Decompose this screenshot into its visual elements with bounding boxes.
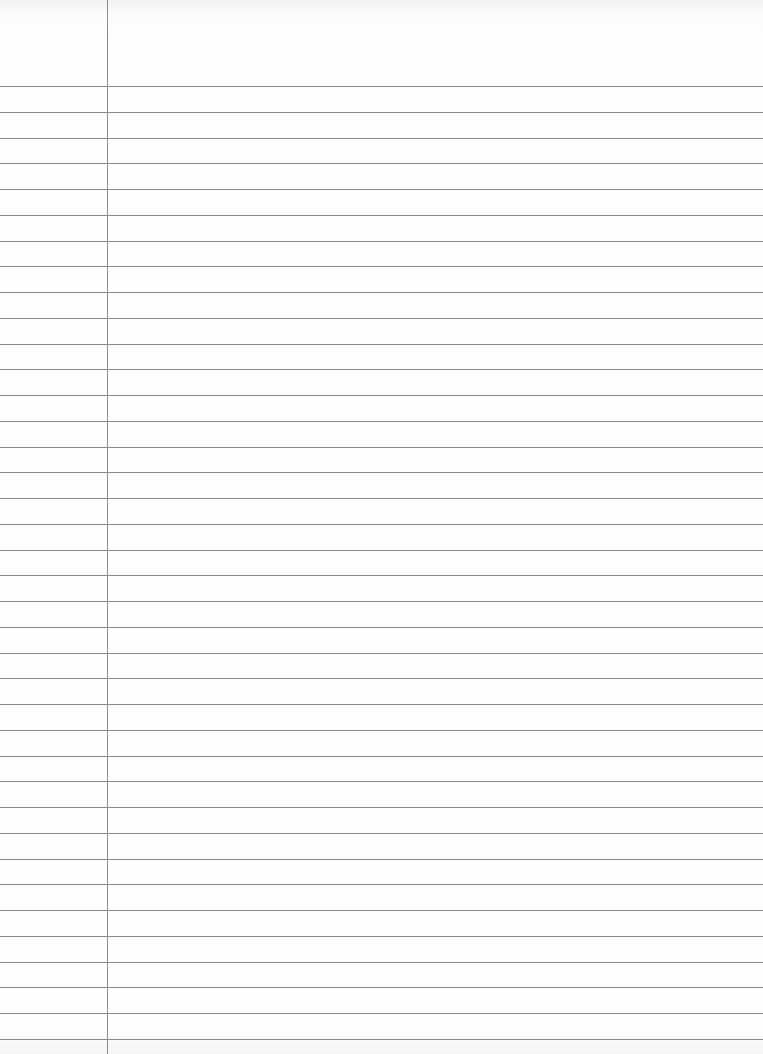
ruled-line	[0, 498, 763, 499]
ruled-line	[0, 112, 763, 113]
ruled-line	[0, 807, 763, 808]
ruled-line	[0, 884, 763, 885]
ruled-line	[0, 627, 763, 628]
ruled-line	[0, 859, 763, 860]
ruled-line	[0, 86, 763, 87]
ruled-line	[0, 936, 763, 937]
ruled-line	[0, 678, 763, 679]
ruled-line	[0, 781, 763, 782]
ruled-line	[0, 910, 763, 911]
ruled-line	[0, 344, 763, 345]
ruled-line	[0, 987, 763, 988]
ruled-line	[0, 138, 763, 139]
ruled-line	[0, 833, 763, 834]
lined-paper-page	[0, 0, 763, 1054]
ruled-line	[0, 266, 763, 267]
ruled-line	[0, 472, 763, 473]
ruled-line	[0, 962, 763, 963]
ruled-line	[0, 1039, 763, 1040]
ruled-line	[0, 653, 763, 654]
ruled-line	[0, 1013, 763, 1014]
ruled-line	[0, 575, 763, 576]
ruled-line	[0, 318, 763, 319]
ruled-line	[0, 395, 763, 396]
ruled-line	[0, 704, 763, 705]
ruled-line	[0, 756, 763, 757]
ruled-line	[0, 447, 763, 448]
ruled-line	[0, 163, 763, 164]
ruled-line	[0, 550, 763, 551]
ruled-line	[0, 601, 763, 602]
ruled-line	[0, 524, 763, 525]
left-margin-line	[107, 0, 108, 1054]
ruled-line	[0, 189, 763, 190]
ruled-line	[0, 730, 763, 731]
ruled-line	[0, 421, 763, 422]
ruled-line	[0, 292, 763, 293]
ruled-line	[0, 215, 763, 216]
ruled-line	[0, 241, 763, 242]
ruled-line	[0, 369, 763, 370]
